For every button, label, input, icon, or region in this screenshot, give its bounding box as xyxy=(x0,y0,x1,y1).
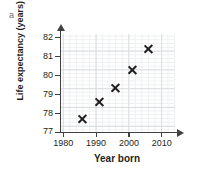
x-axis-title: Year born xyxy=(52,154,182,164)
y-tick-label-79-wrap: 79 xyxy=(36,90,53,100)
y-tick-label-81-wrap: 81 xyxy=(36,52,53,62)
x-tick-label-1990-wrap: 1990 xyxy=(81,139,111,150)
y-tick-label-82: 82 xyxy=(36,33,53,42)
y-tick-81 xyxy=(55,56,60,57)
y-tick-80 xyxy=(55,75,60,76)
x-tick-2000 xyxy=(128,132,129,137)
y-tick-label-79: 79 xyxy=(36,90,53,99)
y-axis-title: Life expectancy (years) xyxy=(16,5,25,101)
y-tick-label-81: 81 xyxy=(36,52,53,61)
x-tick-2010 xyxy=(161,132,162,137)
x-tick-1980 xyxy=(63,132,64,137)
x-axis-arrowhead xyxy=(177,129,184,137)
data-point xyxy=(94,96,105,107)
y-tick-78 xyxy=(55,113,60,114)
x-tick-label-1980: 1980 xyxy=(48,139,78,148)
x-tick-label-2010-wrap: 2010 xyxy=(147,139,177,150)
y-tick-label-77-wrap: 77 xyxy=(36,127,53,137)
y-tick-77 xyxy=(55,132,60,133)
data-point xyxy=(126,64,137,75)
y-tick-79 xyxy=(55,94,60,95)
data-point xyxy=(143,44,154,55)
x-tick-label-1980-wrap: 1980 xyxy=(48,139,78,150)
x-tick-label-2010: 2010 xyxy=(147,139,177,148)
x-tick-label-2000: 2000 xyxy=(114,139,144,148)
data-point xyxy=(110,83,121,94)
y-tick-label-77: 77 xyxy=(36,127,53,136)
y-tick-label-78-wrap: 78 xyxy=(36,109,53,119)
y-axis-arrowhead xyxy=(57,24,65,31)
x-tick-label-2000-wrap: 2000 xyxy=(114,139,144,150)
y-tick-label-78: 78 xyxy=(36,109,53,118)
data-point xyxy=(77,114,88,125)
scatter-plot-figure: a 82 81 80 79 78 77 1980 1990 2000 2010 xyxy=(0,0,198,176)
part-label: a xyxy=(9,11,14,20)
y-axis-line xyxy=(60,30,61,133)
y-tick-label-82-wrap: 82 xyxy=(36,33,53,43)
y-tick-label-80: 80 xyxy=(36,71,53,80)
x-tick-1990 xyxy=(96,132,97,137)
y-tick-label-80-wrap: 80 xyxy=(36,71,53,81)
y-tick-82 xyxy=(55,37,60,38)
x-tick-label-1990: 1990 xyxy=(81,139,111,148)
